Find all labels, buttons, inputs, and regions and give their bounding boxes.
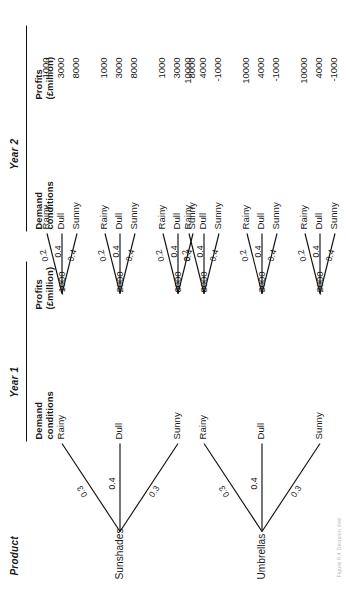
year1-profit-3: 6000 <box>173 271 183 315</box>
year1-profit-5: 3000 <box>257 271 267 315</box>
year1-profit-6: -2000 <box>315 271 325 315</box>
y2-condition-1-dull: Dull <box>56 212 66 229</box>
edge-sunshades-sunny <box>120 443 178 531</box>
y2-condition-2-sunny: Sunny <box>129 202 139 229</box>
y2-condition-3-rainy: Rainy <box>157 204 167 229</box>
prob-y2-5-dull: 0.4 <box>254 245 263 257</box>
y2-condition-5-sunny: Sunny <box>271 202 281 229</box>
y2-profit-2-dull: 3000 <box>114 57 124 105</box>
y2-profit-4-dull: 4000 <box>198 57 208 105</box>
y2-profit-4-sunny: -1000 <box>213 57 223 105</box>
prob-umbrellas-dull: 0.4 <box>250 477 259 489</box>
y2-profit-1-rainy: 1000 <box>41 57 51 105</box>
node-product-umbrellas[interactable]: Umbrellas <box>257 533 267 579</box>
year1-condition-2: Dull <box>114 422 124 439</box>
y2-profit-5-dull: 4000 <box>256 57 266 105</box>
prob-y2-2-dull: 0.4 <box>112 245 121 257</box>
y2-profit-5-sunny: -1000 <box>271 57 281 105</box>
year1-profit-2: 2000 <box>115 271 125 315</box>
y2-condition-6-sunny: Sunny <box>329 202 339 229</box>
y2-profit-6-sunny: -1000 <box>329 57 339 105</box>
year1-condition-6: Sunny <box>314 412 324 439</box>
y2-condition-4-rainy: Rainy <box>183 204 193 229</box>
y2-condition-1-rainy: Rainy <box>41 204 51 229</box>
decision-tree-figure: Product Year 1 Year 2 Demand conditions … <box>0 0 346 593</box>
year1-condition-5: Dull <box>256 422 266 439</box>
y2-condition-2-dull: Dull <box>114 212 124 229</box>
y2-profit-1-dull: 3000 <box>56 57 66 105</box>
prob-y2-3-dull: 0.4 <box>170 245 179 257</box>
y2-condition-2-rainy: Rainy <box>99 204 109 229</box>
prob-sunshades-dull: 0.4 <box>108 477 117 489</box>
edge-umbrellas-sunny <box>262 443 320 531</box>
year1-profit-4: 8000 <box>199 271 209 315</box>
y2-condition-1-sunny: Sunny <box>71 202 81 229</box>
prob-y2-4-dull: 0.4 <box>196 245 205 257</box>
year1-condition-4: Rainy <box>198 414 208 439</box>
y2-profit-6-dull: 4000 <box>314 57 324 105</box>
y2-condition-4-dull: Dull <box>198 212 208 229</box>
y2-profit-6-rainy: 10000 <box>299 57 309 105</box>
y2-profit-1-sunny: 8000 <box>71 57 81 105</box>
prob-y2-6-dull: 0.4 <box>312 245 321 257</box>
y2-condition-5-rainy: Rainy <box>241 204 251 229</box>
y2-profit-5-rainy: 10000 <box>241 57 251 105</box>
rotated-page: Product Year 1 Year 2 Demand conditions … <box>0 0 346 593</box>
y2-condition-3-dull: Dull <box>172 212 182 229</box>
figure-caption: Figure 9.4 Decision tree <box>336 517 343 577</box>
year1-condition-1: Rainy <box>56 414 66 439</box>
y2-condition-5-dull: Dull <box>256 212 266 229</box>
year1-profit-1: -1000 <box>57 271 67 315</box>
y2-condition-6-rainy: Rainy <box>299 204 309 229</box>
y2-profit-2-sunny: 8000 <box>129 57 139 105</box>
y2-condition-6-dull: Dull <box>314 212 324 229</box>
y2-profit-4-rainy: 10000 <box>183 57 193 105</box>
node-product-sunshades[interactable]: Sunshades <box>115 528 125 579</box>
y2-condition-4-sunny: Sunny <box>213 202 223 229</box>
y2-profit-3-dull: 3000 <box>172 57 182 105</box>
prob-y2-1-dull: 0.4 <box>54 245 63 257</box>
y2-profit-2-rainy: 1000 <box>99 57 109 105</box>
y2-profit-3-rainy: 1000 <box>157 57 167 105</box>
year1-condition-3: Sunny <box>172 412 182 439</box>
